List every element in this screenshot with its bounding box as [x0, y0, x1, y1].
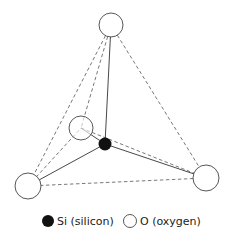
bond-si-center-o-right: [105, 144, 206, 178]
legend-oxygen-icon: [124, 215, 137, 228]
edge-o-back-o-right: [81, 128, 206, 178]
legend-silicon-icon: [42, 215, 54, 227]
silicon-atom: [99, 138, 112, 151]
oxygen-atom-back: [69, 116, 93, 140]
edge-o-top-o-right: [111, 25, 206, 178]
legend-silicon-label: Si (silicon): [57, 215, 114, 228]
oxygen-atom-right: [193, 165, 219, 191]
legend-oxygen-label: O (oxygen): [140, 215, 201, 228]
oxygen-atom-top: [99, 13, 123, 37]
tetrahedron-edges: [28, 25, 206, 186]
edge-o-top-o-left: [28, 25, 111, 186]
si-o-bonds: [28, 25, 206, 186]
legend: Si (silicon) O (oxygen): [42, 215, 201, 229]
edge-o-left-o-right: [28, 178, 206, 186]
silicon-oxygen-tetrahedron-diagram: Si (silicon) O (oxygen): [0, 0, 233, 242]
oxygen-atom-left: [15, 173, 41, 199]
